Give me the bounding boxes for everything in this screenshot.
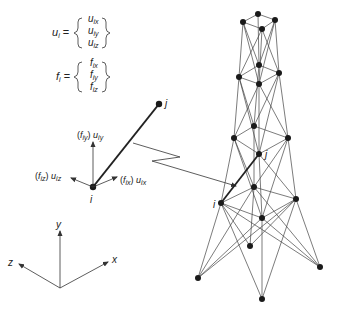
x-axis-label: x (111, 254, 118, 265)
displacement-vector-equation: ui = uix uiy uiz (52, 13, 110, 49)
tower-node-i-label: i (213, 199, 216, 210)
right-brace (102, 18, 110, 48)
right-brace (102, 62, 110, 92)
node-i-label: i (90, 194, 93, 205)
z-axis-label: z (7, 257, 13, 268)
svg-text:fi =: fi = (56, 70, 70, 83)
left-brace (74, 18, 82, 48)
zigzag-leader-arrow (133, 143, 236, 186)
tower-node-i (218, 200, 224, 206)
dof-z-label: (fiz) uiz (35, 171, 62, 182)
node-j-label: j (163, 98, 168, 109)
svg-text:fix: fix (90, 57, 98, 69)
isolated-element: j i (fiy) uiy (fiz) uiz (fix) uix (35, 98, 168, 205)
x-axis-arrow (60, 262, 108, 288)
svg-text:ui =: ui = (52, 26, 69, 39)
left-brace (74, 62, 82, 92)
coordinate-axes: y z x (7, 219, 118, 288)
tower-node-j-label: j (263, 149, 268, 160)
dof-z-arrow (71, 178, 93, 187)
dof-x-label: (fix) uix (120, 175, 147, 186)
svg-text:fiz: fiz (90, 81, 98, 93)
svg-text:uiz: uiz (88, 37, 99, 49)
svg-text:uix: uix (88, 13, 99, 25)
y-axis-label: y (55, 219, 62, 230)
z-axis-arrow (19, 264, 60, 288)
force-vector-equation: fi = fix fiy fiz (56, 57, 110, 93)
truss-diagram: ui = uix uiy uiz fi = fix fiy fiz j i (f… (0, 0, 344, 319)
tower-node-j (256, 151, 262, 157)
element-node-j (156, 101, 162, 107)
dof-y-label: (fiy) uiy (77, 130, 104, 142)
